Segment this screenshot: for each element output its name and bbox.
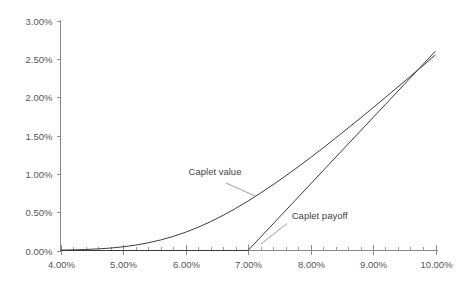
y-tick-label-1: 0.50% [26,207,53,218]
annotation-group: Caplet value Caplet payoff [189,166,348,244]
chart-canvas: 0.00%0.50%1.00%1.50%2.00%2.50%3.00% 4.00… [0,0,467,283]
y-tick-label-0: 0.00% [26,246,53,257]
leader-line-caplet-value [226,183,256,196]
annotation-caplet-payoff: Caplet payoff [292,210,348,221]
y-tick-label-6: 3.00% [26,16,53,27]
x-tick-label-0: 4.00% [48,259,75,270]
annotation-caplet-value: Caplet value [189,166,242,177]
x-tick-label-1: 5.00% [110,259,137,270]
series-line-caplet-value [61,55,436,250]
x-tick-label-4: 8.00% [298,259,325,270]
y-tick-label-3: 1.50% [26,131,53,142]
x-tick-label-6: 10.00% [420,259,453,270]
y-tick-label-5: 2.50% [26,54,53,65]
y-tick-marks [57,22,61,252]
series-group [61,51,436,250]
leader-line-caplet-payoff [261,224,287,245]
y-tick-label-4: 2.00% [26,92,53,103]
x-tick-label-2: 6.00% [173,259,200,270]
y-axis-group: 0.00%0.50%1.00%1.50%2.00%2.50%3.00% [26,16,61,257]
caplet-chart: 0.00%0.50%1.00%1.50%2.00%2.50%3.00% 4.00… [0,0,467,283]
x-tick-label-3: 7.00% [235,259,262,270]
x-tick-label-5: 9.00% [360,259,387,270]
y-tick-label-2: 1.00% [26,169,53,180]
y-tick-labels: 0.00%0.50%1.00%1.50%2.00%2.50%3.00% [26,16,53,257]
x-tick-labels: 4.00%5.00%6.00%7.00%8.00%9.00%10.00% [48,259,453,270]
series-line-caplet-payoff [61,51,436,250]
